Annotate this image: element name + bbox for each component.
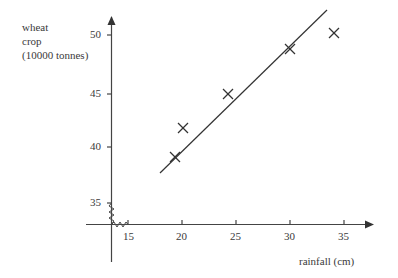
x-tick-35: 35: [338, 230, 349, 242]
data-points: [170, 28, 339, 162]
y-tick-50: 50: [90, 28, 101, 40]
data-point: [329, 28, 339, 38]
data-point: [223, 89, 233, 99]
x-axis: [86, 220, 373, 227]
y-tick-40: 40: [90, 140, 101, 152]
y-axis-label-line3: (10000 tonnes): [22, 48, 88, 62]
x-tick-15: 15: [123, 230, 134, 242]
y-tick-45: 45: [90, 87, 101, 99]
x-axis-label: rainfall (cm): [299, 254, 354, 268]
x-tick-25: 25: [230, 230, 241, 242]
y-axis-label-line1: wheat: [22, 20, 48, 34]
y-tick-35: 35: [90, 196, 101, 208]
data-point: [170, 152, 180, 162]
x-tick-20: 20: [176, 230, 187, 242]
best-fit-line: [160, 10, 327, 173]
data-point: [178, 123, 188, 133]
y-axis: [107, 17, 114, 262]
x-tick-30: 30: [284, 230, 295, 242]
y-axis-label-line2: crop: [22, 34, 42, 48]
